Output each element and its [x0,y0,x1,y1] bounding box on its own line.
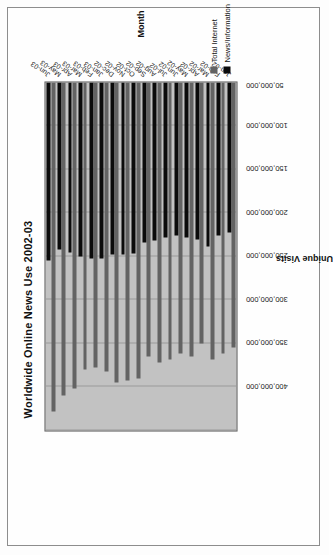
bar-group [130,82,141,430]
bar-total-internet-Mar-02 [210,82,214,359]
bar-group [205,82,216,430]
category-axis-title: Month [135,10,145,37]
bar-total-internet-Mar-03 [83,82,87,369]
chart-canvas: Worldwide Online News Use 2002-03 50,000… [14,14,314,539]
bar-group [99,82,110,430]
bar-news-information-Jun-02 [174,82,178,235]
bar-group [141,82,152,430]
bar-total-internet-Jul-02 [168,82,172,359]
bar-total-internet-Jun-03 [51,82,55,411]
rotated-chart-wrapper: Worldwide Online News Use 2002-03 50,000… [14,14,314,539]
bar-group [226,82,237,430]
bar-group [194,82,205,430]
bar-total-internet-Aug-02 [157,82,161,362]
bar-total-internet-Sep-02 [147,82,151,356]
bar-group [183,82,194,430]
bar-total-internet-Nov-02 [126,82,130,380]
bar-news-information-Oct-02 [132,82,136,253]
plot-area [45,81,238,431]
bar-group [162,82,173,430]
bar-group [152,82,163,430]
bar-news-information-Aug-02 [153,82,157,240]
bar-total-internet-Apr-02 [200,82,204,343]
bar-group [46,82,57,430]
bar-news-information-Jul-02 [164,82,168,237]
bar-news-information-Sep-02 [142,82,146,242]
bar-news-information-Jan-03 [100,82,104,258]
bar-news-information-May-02 [185,82,189,237]
chart-legend: Total InternetNews/Information [210,0,236,73]
value-tick-label: 400,000,000 [246,382,288,391]
bar-news-information-Apr-03 [68,82,72,252]
bar-group [77,82,88,430]
bar-total-internet-Dec-02 [115,82,119,382]
value-tick-label: 150,000,000 [246,164,288,173]
bar-news-information-Apr-02 [195,82,199,239]
bar-news-information-Dec-02 [111,82,115,254]
value-tick-label: 350,000,000 [246,338,288,347]
legend-label: News/Information [223,4,232,62]
bar-total-internet-Feb-03 [94,82,98,367]
bar-total-internet-May-02 [189,82,193,356]
bar-total-internet-Jan-02 [232,82,236,347]
bar-news-information-Nov-02 [121,82,125,254]
value-tick-label: 200,000,000 [246,208,288,217]
bar-news-information-Mar-03 [79,82,83,256]
value-tick-label: 50,000,000 [246,81,284,90]
bar-total-internet-Jan-03 [104,82,108,371]
value-axis-title: Unique Visits [276,254,333,264]
bar-total-internet-Feb-02 [221,82,225,353]
bar-total-internet-Jun-02 [179,82,183,353]
value-tick-label: 100,000,000 [246,121,288,130]
page-frame-border: Worldwide Online News Use 2002-03 50,000… [7,7,320,546]
bar-news-information-Feb-03 [89,82,93,258]
bar-news-information-May-03 [57,82,61,249]
legend-swatch-news [224,66,231,73]
value-tick-label: 300,000,000 [246,295,288,304]
legend-swatch-total [211,66,218,73]
bar-total-internet-Oct-02 [136,82,140,378]
chart-title: Worldwide Online News Use 2002-03 [22,99,34,539]
bar-news-information-Jun-03 [47,82,51,260]
legend-item: News/Information [223,0,232,73]
legend-item: Total Internet [210,0,219,73]
bar-group [109,82,120,430]
bar-total-internet-Apr-03 [73,82,77,388]
bar-group [120,82,131,430]
bar-news-information-Jan-02 [227,82,231,232]
bar-group [215,82,226,430]
bar-group [173,82,184,430]
bar-news-information-Feb-02 [217,82,221,235]
bar-group [56,82,67,430]
bar-total-internet-May-03 [62,82,66,395]
bar-news-information-Mar-02 [206,82,210,246]
bar-group [67,82,78,430]
bar-group [88,82,99,430]
legend-label: Total Internet [210,19,219,62]
